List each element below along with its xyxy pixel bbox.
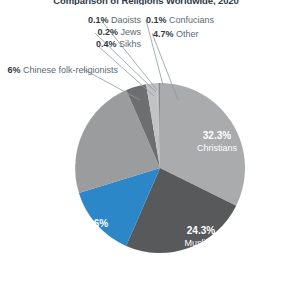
callout-jews-label: Jews xyxy=(118,27,141,37)
callout-daoists-label: Daoists xyxy=(108,15,141,25)
slice-label-buddhists-value: 7% xyxy=(59,102,73,113)
callout-chinese-label: Chinese folk-religionists xyxy=(20,65,118,75)
slice-label-atheists-agnostics: 11.3% Atheists and Agnostics xyxy=(14,155,142,179)
slice-label-buddhists-name: Buddhists xyxy=(46,115,86,125)
callout-confucians-label: Confucians xyxy=(167,15,215,25)
callout-daoists: 0.1% Daoists xyxy=(12,15,141,27)
slice-label-hindu-name: Hindu xyxy=(82,231,106,241)
slice-label-atheists-value: 11.3% xyxy=(14,155,42,166)
callout-other: 4.7% Other xyxy=(153,29,199,41)
slice-label-muslims-value: 24.3% xyxy=(187,225,215,236)
callout-sikhs-label: Sikhs xyxy=(116,39,141,49)
slice-label-muslims-name: Muslims xyxy=(185,238,218,248)
callout-jews-value: 0.2% xyxy=(97,27,118,37)
slice-label-hindu-value: 13.6% xyxy=(80,218,108,229)
callout-confucians: 0.1% Confucians xyxy=(146,15,214,27)
slice-label-atheists-name2: and Agnostics xyxy=(14,168,70,178)
callout-chinese-folk-religionists: 6% Chinese folk-religionists xyxy=(0,64,118,76)
callout-other-value: 4.7% xyxy=(153,29,174,39)
callout-sikhs-value: 0.4% xyxy=(96,39,117,49)
callout-sikhs: 0.4% Sikhs xyxy=(12,39,141,51)
slice-label-buddhists: 7% Buddhists xyxy=(28,102,104,126)
slice-label-hindu: 13.6% Hindu xyxy=(56,218,132,242)
callout-daoists-value: 0.1% xyxy=(88,15,109,25)
slice-label-christians-name: Christians xyxy=(197,143,237,153)
slice-label-atheists-name: Atheists xyxy=(42,156,76,166)
callout-chinese-value: 6% xyxy=(7,65,20,75)
slice-label-christians-value: 32.3% xyxy=(203,130,231,141)
slice-label-christians: 32.3% Christians xyxy=(176,130,258,154)
pie-chart-figure: Comparison of Religions Worldwide, 2020 xyxy=(0,0,292,300)
slice-label-muslims: 24.3% Muslims xyxy=(160,225,242,249)
callout-jews: 0.2% Jews xyxy=(12,27,141,39)
callout-other-label: Other xyxy=(174,29,199,39)
callout-confucians-value: 0.1% xyxy=(146,15,167,25)
